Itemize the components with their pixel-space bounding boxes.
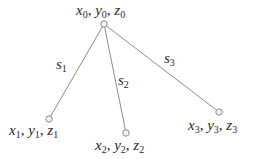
node-3-icon (216, 109, 222, 115)
node-0-label: x0, y0, z0 (76, 3, 125, 18)
sub: 3 (232, 124, 237, 135)
var-y: y (207, 117, 214, 133)
var-x: x (95, 137, 102, 153)
var-x: x (188, 117, 195, 133)
var-x: x (76, 2, 83, 18)
edge-label-s3: s3 (164, 51, 175, 66)
sub: 1 (53, 129, 58, 140)
var-x: x (9, 122, 16, 138)
sub: 2 (124, 79, 129, 90)
node-1-label: x1, y1, z1 (9, 123, 58, 138)
node-2-icon (123, 130, 129, 136)
sub: 3 (170, 57, 175, 68)
sub: 0 (120, 9, 125, 20)
var-y: y (28, 122, 35, 138)
node-2-label: x2, y2, z2 (95, 138, 144, 153)
var-y: y (95, 2, 102, 18)
node-0-icon (101, 21, 107, 27)
var-y: y (114, 137, 121, 153)
node-3-label: x3, y3, z3 (188, 118, 237, 133)
sub: 1 (62, 63, 67, 74)
edge-s3 (104, 24, 219, 112)
edge-label-s1: s1 (56, 57, 67, 72)
sub: 2 (139, 144, 144, 155)
edge-label-s2: s2 (118, 73, 129, 88)
